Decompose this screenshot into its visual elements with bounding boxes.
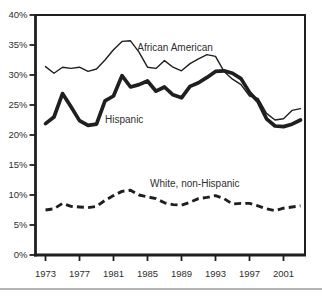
series-line-white-non-hispanic bbox=[46, 190, 301, 210]
y-tick-label: 40% bbox=[8, 9, 28, 20]
figure-page: 0%5%10%15%20%25%30%35%40% 19731977198119… bbox=[0, 0, 322, 297]
separator-line bbox=[0, 288, 322, 290]
x-tick-label: 1997 bbox=[239, 268, 260, 279]
y-tick-label: 35% bbox=[8, 39, 28, 50]
series-label-hispanic: Hispanic bbox=[105, 114, 143, 125]
y-axis: 0%5%10%15%20%25%30%35%40% bbox=[8, 9, 35, 260]
y-tick-label: 30% bbox=[8, 69, 28, 80]
y-tick-label: 10% bbox=[8, 189, 28, 200]
poverty-rate-line-chart: 0%5%10%15%20%25%30%35%40% 19731977198119… bbox=[0, 0, 322, 297]
x-tick-label: 1985 bbox=[137, 268, 158, 279]
x-axis: 19731977198119851989199319972001 bbox=[35, 255, 294, 279]
x-tick-label: 1973 bbox=[35, 268, 56, 279]
y-tick-label: 20% bbox=[8, 129, 28, 140]
series-label-white-non-hispanic: White, non-Hispanic bbox=[150, 178, 239, 189]
series-line-hispanic bbox=[46, 71, 301, 127]
x-tick-label: 2001 bbox=[273, 268, 294, 279]
x-tick-label: 1977 bbox=[69, 268, 90, 279]
x-tick-label: 1993 bbox=[205, 268, 226, 279]
y-tick-label: 5% bbox=[14, 219, 28, 230]
series-label-african-american: African American bbox=[137, 42, 213, 53]
x-tick-label: 1989 bbox=[171, 268, 192, 279]
y-tick-label: 25% bbox=[8, 99, 28, 110]
y-tick-label: 15% bbox=[8, 159, 28, 170]
y-tick-label: 0% bbox=[14, 249, 28, 260]
x-tick-label: 1981 bbox=[103, 268, 124, 279]
